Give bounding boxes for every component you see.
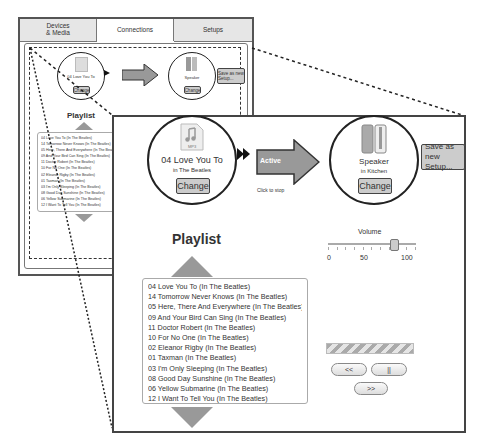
change-source-button[interactable]: Change: [176, 178, 210, 194]
save-as-new-setup-button[interactable]: Save as new Setup...: [421, 144, 465, 170]
slider-track: [328, 243, 416, 245]
slider-ticks: [328, 247, 416, 250]
next-button[interactable]: >>: [354, 382, 388, 395]
mp3-file-icon: MP3: [179, 123, 205, 151]
list-item[interactable]: 04 Love You To (In The Beatles): [148, 282, 302, 292]
destination-subtitle: in Kitchen: [331, 168, 417, 174]
button-label: ||: [387, 366, 391, 373]
zoomed-connections-panel: MP3 04 Love You To in The Beatles Change…: [112, 115, 466, 433]
button-label: <<: [345, 366, 353, 373]
change-destination-button[interactable]: Change: [358, 178, 392, 194]
list-item[interactable]: 11 Doctor Robert (In The Beatles): [148, 323, 302, 333]
list-item[interactable]: 12 I Want To Tell You (In The Beatles): [148, 394, 302, 404]
button-label: >>: [367, 385, 375, 392]
scroll-down-icon[interactable]: [171, 407, 213, 428]
previous-button[interactable]: <<: [331, 363, 367, 376]
list-item[interactable]: 09 And Your Bird Can Sing (In The Beatle…: [148, 313, 302, 323]
list-item[interactable]: 08 Good Day Sunshine (In The Beatles): [148, 374, 302, 384]
click-to-stop-hint: Click to stop: [257, 187, 284, 193]
volume-min-label: 0: [327, 254, 331, 261]
slider-thumb[interactable]: [390, 239, 399, 251]
destination-circle: Speaker in Kitchen Change: [329, 115, 419, 205]
list-item[interactable]: 03 I'm Only Sleeping (In The Beatles): [148, 364, 302, 374]
list-item[interactable]: 01 Taxman (In The Beatles): [148, 353, 302, 363]
volume-max-label: 100: [401, 254, 413, 261]
playlist-title: Playlist: [172, 231, 221, 247]
button-label: Change: [359, 181, 391, 191]
list-item[interactable]: 02 Eleanor Rigby (In The Beatles): [148, 343, 302, 353]
volume-slider[interactable]: [328, 239, 416, 251]
list-item[interactable]: 05 Here, There And Everywhere (In The Be…: [148, 302, 302, 312]
svg-text:MP3: MP3: [188, 144, 197, 149]
button-label: Change: [177, 181, 209, 191]
pause-button[interactable]: ||: [371, 363, 407, 376]
list-item[interactable]: 14 Tomorrow Never Knows (In The Beatles): [148, 292, 302, 302]
button-label: Save as new Setup...: [425, 142, 464, 172]
source-subtitle: in The Beatles: [149, 167, 235, 173]
list-item[interactable]: 06 Yellow Submarine (In The Beatles): [148, 384, 302, 394]
speaker-icon: [360, 123, 388, 155]
active-status-label: Active: [260, 157, 281, 164]
source-title: 04 Love You To: [149, 155, 235, 165]
volume-label: Volume: [358, 228, 381, 235]
scroll-up-icon[interactable]: [171, 256, 213, 277]
volume-mid-label: 50: [360, 254, 368, 261]
destination-title: Speaker: [331, 157, 417, 166]
source-circle: MP3 04 Love You To in The Beatles Change: [147, 115, 237, 205]
play-indicator-icon: [237, 148, 253, 160]
playlist-list[interactable]: 04 Love You To (In The Beatles) 14 Tomor…: [142, 278, 308, 404]
list-item[interactable]: 10 For No One (In The Beatles): [148, 333, 302, 343]
progress-bar: [326, 343, 414, 354]
